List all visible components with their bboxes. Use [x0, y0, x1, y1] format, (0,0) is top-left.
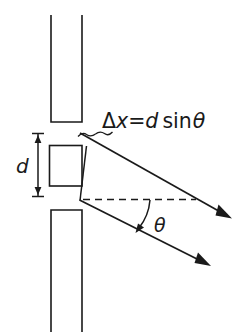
double-slit-diagram: Δx=dsinθ d θ	[0, 0, 239, 332]
formula-theta: θ	[193, 109, 206, 133]
formula-equals: =	[128, 109, 145, 133]
formula-d: d	[145, 109, 159, 133]
angle-theta-label: θ	[154, 214, 166, 236]
formula-x: x	[115, 109, 129, 133]
path-difference-formula: Δx=dsinθ	[102, 109, 206, 133]
diagram-canvas: Δx=dsinθ d θ Double-slit path difference…	[0, 0, 239, 332]
formula-delta: Δ	[102, 109, 116, 133]
diagram-background	[0, 0, 239, 332]
formula-sin: sin	[162, 109, 191, 133]
slit-separation-label: d	[16, 154, 29, 178]
